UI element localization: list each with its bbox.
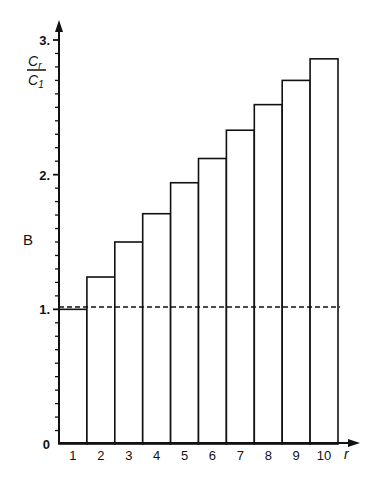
y-tick-label: 3. [39,33,50,48]
x-tick-label: 1 [69,448,76,463]
bars [59,59,338,444]
svg-text:C1: C1 [28,72,44,90]
bar-1 [59,309,87,444]
x-tick-label: 2 [97,448,104,463]
side-label-b: B [23,231,33,248]
y-axis-tick-labels: 01.2.3. [39,33,50,452]
bar-7 [226,130,254,444]
bar-4 [143,214,171,444]
x-tick-label: 4 [153,448,160,463]
bar-3 [115,242,143,444]
x-tick-label: 10 [317,448,331,463]
bar-6 [199,159,227,444]
y-axis-arrow-icon [55,20,63,32]
x-axis-tick-labels: 12345678910 [69,448,331,463]
bar-8 [254,105,282,444]
y-tick-label: 2. [39,168,50,183]
x-tick-label: 9 [293,448,300,463]
y-title-denominator-sub: 1 [38,79,44,90]
bar-chart: 12345678910 01.2.3. r Cr C1 B [0,0,378,478]
x-tick-label: 8 [265,448,272,463]
y-tick-label: 1. [39,302,50,317]
x-axis-label: r [344,446,350,462]
x-tick-label: 3 [125,448,132,463]
bar-2 [87,277,115,444]
y-tick-label: 0 [43,437,50,452]
bar-10 [310,59,338,444]
x-axis-arrow-icon [348,439,360,447]
y-axis-title: Cr C1 [27,53,46,90]
bar-9 [282,80,310,444]
bar-5 [171,183,199,444]
x-tick-label: 7 [237,448,244,463]
svg-text:Cr: Cr [28,53,42,71]
x-tick-label: 5 [181,448,188,463]
x-tick-label: 6 [209,448,216,463]
